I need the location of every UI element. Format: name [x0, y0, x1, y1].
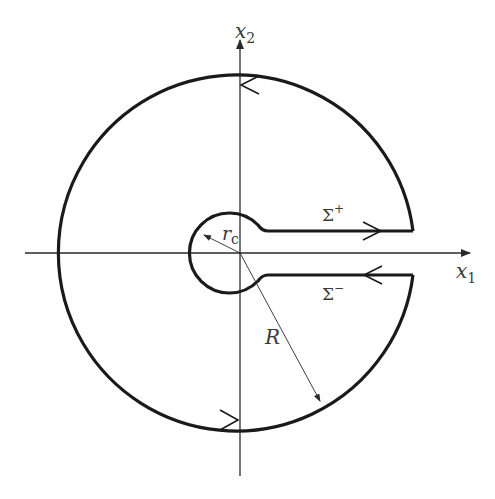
x2-axis-label: x2: [235, 19, 255, 46]
x1-axis-label: x1: [456, 259, 476, 286]
small-radius-label: rc: [222, 222, 239, 247]
keyhole-contour-diagram: x2 x1 rc R Σ+ Σ−: [0, 0, 495, 499]
sigma-plus-label: Σ+: [322, 202, 344, 225]
sigma-minus-label: Σ−: [322, 281, 344, 304]
direction-arrow-bottom: [220, 410, 238, 430]
large-radius-label: R: [264, 325, 280, 349]
direction-arrow-top: [241, 76, 259, 94]
